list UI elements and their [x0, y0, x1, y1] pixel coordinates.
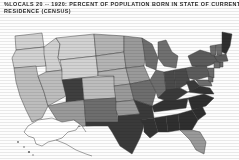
state-CT	[214, 62, 220, 68]
state-ME	[222, 32, 232, 54]
state-VT	[210, 45, 216, 55]
state-MT	[56, 34, 96, 60]
state-RI	[220, 62, 223, 67]
state-TN	[152, 98, 188, 112]
state-OR	[12, 47, 46, 68]
state-CO	[82, 76, 116, 100]
state-HI	[17, 141, 19, 143]
state-FL	[180, 130, 206, 154]
choropleth-figure: %LOCALS 20 -- 1920: PERCENT OF POPULATIO…	[0, 0, 239, 160]
state-AL	[166, 114, 180, 132]
state-NH	[216, 44, 222, 55]
state-UT	[62, 78, 84, 102]
figure-title-line-2: RESIDENCE (CENSUS)	[4, 8, 236, 16]
state-MI	[158, 40, 178, 68]
figure-title: %LOCALS 20 -- 1920: PERCENT OF POPULATIO…	[4, 1, 236, 15]
us-map	[0, 14, 239, 160]
state-AK	[24, 118, 80, 146]
hawaii-island-4	[32, 154, 33, 155]
state-PA	[186, 64, 210, 80]
state-WY	[60, 56, 98, 80]
hawaii-island-2	[23, 146, 25, 148]
us-map-svg	[0, 14, 239, 160]
hawaii-island-3	[28, 151, 30, 153]
state-WI	[142, 38, 158, 70]
alaska-aleutian-tail	[56, 140, 92, 156]
state-NC	[188, 94, 214, 110]
